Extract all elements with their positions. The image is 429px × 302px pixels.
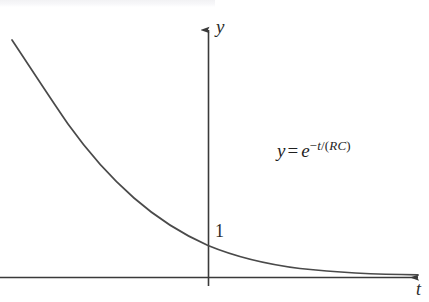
- exponential-decay-figure: y t 1 y=e−t/(RC): [0, 0, 429, 302]
- equation-lhs: y: [277, 140, 285, 161]
- equation-base: e: [301, 140, 309, 161]
- exponent-close-paren: ): [346, 138, 351, 153]
- exponent-minus-sign: −: [310, 138, 318, 153]
- equation-exponent: −t/(RC): [310, 138, 351, 153]
- equation-annotation: y=e−t/(RC): [277, 139, 351, 160]
- y-axis-label: y: [216, 17, 224, 36]
- plot-canvas: [0, 0, 429, 302]
- t-axis-label: t: [416, 280, 421, 298]
- exponent-denominator: RC: [329, 138, 346, 153]
- equation-equals-sign: =: [287, 140, 298, 161]
- y-axis-tick-label-one: 1: [215, 222, 224, 240]
